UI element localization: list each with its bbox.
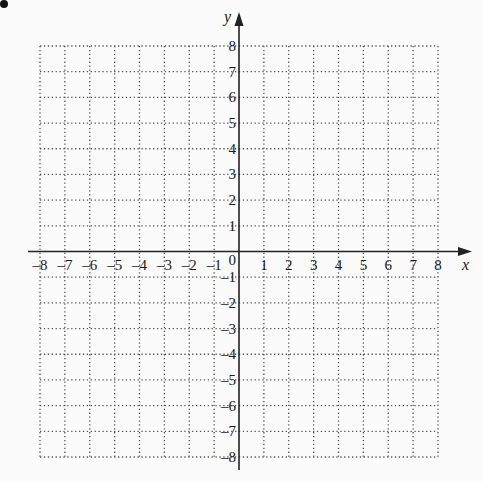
x-tick-label: –6: [81, 257, 98, 273]
x-tick-label: –2: [181, 257, 197, 273]
y-tick-label: –2: [220, 295, 236, 311]
y-tick-label: 3: [229, 166, 237, 182]
y-tick-label: –7: [220, 423, 237, 439]
y-axis-arrow-icon: [235, 12, 244, 26]
x-tick-label: 2: [285, 257, 293, 273]
x-tick-label: –3: [156, 257, 172, 273]
x-tick-label: –7: [56, 257, 73, 273]
x-tick-label: 8: [434, 257, 442, 273]
x-tick-label: –8: [32, 257, 48, 273]
y-tick-label: 2: [229, 192, 237, 208]
y-tick-label: 7: [229, 64, 237, 80]
x-tick-label: 4: [335, 257, 343, 273]
y-tick-label: 4: [229, 141, 237, 157]
x-tick-label: 6: [385, 257, 393, 273]
y-tick-label: –8: [220, 449, 236, 465]
x-axis-label: x: [461, 256, 469, 273]
x-tick-label: –5: [106, 257, 122, 273]
origin-label: 0: [229, 252, 237, 268]
x-tick-label: –1: [206, 257, 222, 273]
x-tick-label: 7: [409, 257, 417, 273]
y-tick-label: –6: [220, 398, 237, 414]
x-tick-label: 1: [260, 257, 268, 273]
y-axis-label: y: [222, 8, 232, 26]
x-tick-label: –4: [131, 257, 148, 273]
y-tick-label: 8: [229, 38, 237, 54]
y-tick-label: –5: [220, 372, 236, 388]
y-tick-label: 6: [229, 89, 237, 105]
x-tick-label: 5: [360, 257, 368, 273]
y-tick-label: 5: [229, 115, 237, 131]
coordinate-plane: –8–7–6–5–4–3–2–11234567887654321–1–2–3–4…: [0, 0, 483, 482]
x-tick-label: 3: [310, 257, 318, 273]
y-tick-label: –1: [220, 269, 236, 285]
y-tick-label: –4: [220, 346, 237, 362]
y-tick-label: –3: [220, 321, 236, 337]
y-tick-label: 1: [229, 218, 237, 234]
